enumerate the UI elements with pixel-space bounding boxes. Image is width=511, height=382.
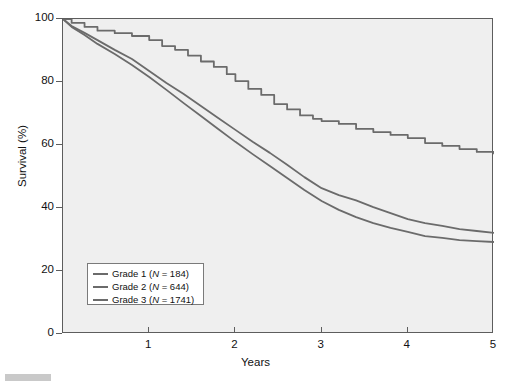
survival-curve-grade-2 (63, 19, 494, 233)
x-tick-label: 5 (478, 339, 508, 351)
legend-row: Grade 3 (N = 1741) (93, 294, 198, 306)
survival-curve-grade-1 (63, 19, 494, 154)
legend-line-swatch (93, 286, 108, 288)
legend-label-prefix: Grade 2 ( (112, 281, 152, 292)
y-tick-label: 20 (14, 264, 54, 276)
y-tick-mark (56, 207, 62, 208)
legend-line-swatch (93, 299, 108, 301)
y-tick-mark (56, 144, 62, 145)
legend-label-prefix: Grade 3 ( (112, 294, 152, 305)
y-tick-label: 100 (14, 12, 54, 24)
legend-label-prefix: Grade 1 ( (112, 268, 152, 279)
x-tick-mark (321, 327, 322, 333)
x-tick-label: 2 (219, 339, 249, 351)
x-tick-mark (234, 327, 235, 333)
y-tick-label: 80 (14, 75, 54, 87)
legend-label: Grade 2 (N = 644) (112, 282, 189, 292)
caption-bar-decoration (5, 374, 51, 381)
chart-legend: Grade 1 (N = 184)Grade 2 (N = 644)Grade … (87, 263, 204, 305)
legend-label-suffix: = 1741) (159, 294, 194, 305)
legend-label-n-symbol: N (152, 268, 159, 279)
y-tick-mark (56, 81, 62, 82)
legend-line-swatch (93, 273, 108, 275)
x-tick-label: 3 (306, 339, 336, 351)
legend-label: Grade 1 (N = 184) (112, 269, 189, 279)
legend-label-n-symbol: N (152, 281, 159, 292)
y-tick-mark (56, 270, 62, 271)
y-axis-title: Survival (%) (16, 96, 28, 216)
legend-label-n-symbol: N (152, 294, 159, 305)
legend-label-suffix: = 184) (159, 268, 189, 279)
x-tick-label: 1 (133, 339, 163, 351)
y-tick-label: 40 (14, 201, 54, 213)
y-tick-label: 0 (14, 327, 54, 339)
survival-chart-figure: Survival (%) 020406080100 12345 Years Gr… (0, 0, 511, 382)
x-tick-mark (148, 327, 149, 333)
survival-curve-grade-3 (63, 19, 494, 242)
legend-row: Grade 2 (N = 644) (93, 281, 198, 293)
y-tick-mark (56, 18, 62, 19)
x-tick-label: 4 (392, 339, 422, 351)
x-tick-mark (407, 327, 408, 333)
legend-label: Grade 3 (N = 1741) (112, 295, 194, 305)
y-tick-label: 60 (14, 138, 54, 150)
kaplan-meier-curves (63, 19, 494, 242)
legend-label-suffix: = 644) (159, 281, 189, 292)
legend-row: Grade 1 (N = 184) (93, 268, 198, 280)
x-axis-title: Years (0, 356, 511, 368)
y-tick-mark (56, 333, 62, 334)
